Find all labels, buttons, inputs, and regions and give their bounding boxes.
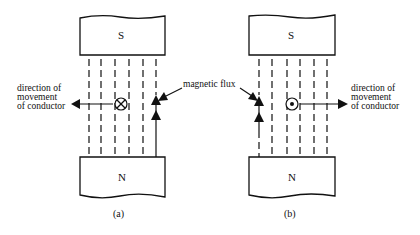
caption-b: (b) [284, 208, 296, 219]
movement-arrow-b [300, 99, 348, 109]
magnetic-flux-label: magnetic flux [183, 80, 236, 89]
flux-lines-b [272, 59, 327, 157]
movement-label-b-line3: of conductor [351, 102, 399, 111]
pole-label-n-a: N [118, 171, 126, 183]
conductor-cross-a [115, 98, 127, 110]
movement-label-a-line3: of conductor [17, 102, 65, 111]
diagram-canvas [0, 0, 420, 235]
movement-label-a: direction of movement of conductor [17, 84, 65, 111]
caption-a: (a) [113, 208, 124, 219]
conductor-dot-b [286, 98, 298, 110]
flux-pointer-b [240, 88, 258, 101]
pole-label-s-a: S [118, 29, 124, 41]
pole-label-s-b: S [288, 29, 294, 41]
movement-arrow-a [71, 99, 113, 109]
pole-label-n-b: N [288, 171, 296, 183]
flux-pointer-a [158, 88, 182, 101]
movement-label-b: direction of movement of conductor [351, 84, 399, 111]
